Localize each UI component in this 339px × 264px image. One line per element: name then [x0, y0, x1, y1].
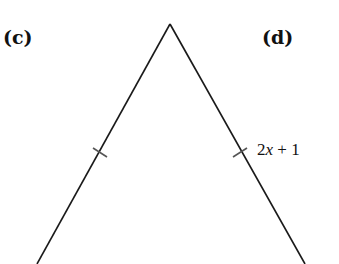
side-length-label: 2x + 1: [257, 140, 300, 160]
coef: 2: [257, 140, 266, 159]
diagram: (c) (d) 2x + 1: [0, 0, 339, 264]
label-d: (d): [262, 26, 293, 48]
left-side: [37, 24, 170, 264]
label-c: (c): [3, 26, 33, 48]
variable: x: [266, 140, 274, 159]
constant: + 1: [273, 140, 300, 159]
